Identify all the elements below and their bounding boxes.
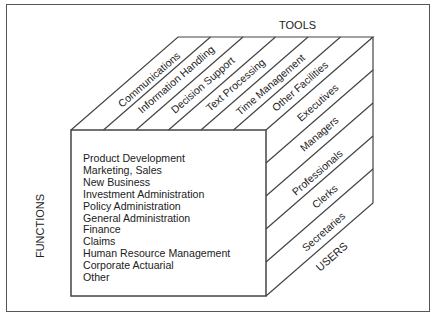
function-item: Other [83, 272, 230, 284]
functions-axis-label: FUNCTIONS [34, 194, 46, 258]
tool-label: Text Processing [203, 56, 267, 114]
function-item: Policy Administration [83, 201, 230, 213]
tools-axis-label: TOOLS [279, 19, 316, 31]
functions-list: Product Development Marketing, Sales New… [83, 153, 230, 284]
user-label: Clerks [309, 182, 339, 211]
function-item: New Business [83, 177, 230, 189]
function-item: Investment Administration [83, 189, 230, 201]
users-axis-label: USERS [313, 240, 349, 274]
